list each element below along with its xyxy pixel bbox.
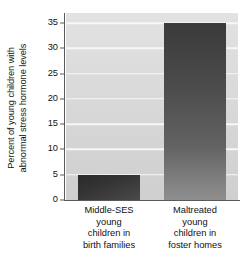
y-tick-label-35: 35 (36, 18, 58, 27)
bar-fill-1 (164, 23, 226, 200)
y-axis-title-line-2: abnormal stress hormone levels (18, 44, 29, 173)
y-tick-label-20: 20 (36, 94, 58, 103)
bar-chart-figure: Percent of young children with abnormal … (0, 0, 250, 260)
x-category-label-1: Maltreatedyoungchildren infoster homes (152, 205, 238, 260)
y-tick-label-0: 0 (36, 195, 58, 204)
x-category-1-line-0: Maltreated (173, 205, 217, 217)
x-category-1-line-3: foster homes (168, 240, 222, 252)
x-category-0-line-3: birth families (83, 240, 135, 252)
bar-1 (164, 23, 226, 200)
bar-0 (78, 175, 140, 200)
y-tick-label-15: 15 (36, 120, 58, 129)
x-category-1-line-2: children in (174, 228, 216, 240)
x-axis-category-labels: Middle-SESyoungchildren inbirth families… (66, 205, 238, 260)
y-tick-label-10: 10 (36, 145, 58, 154)
x-category-label-0: Middle-SESyoungchildren inbirth families (66, 205, 152, 260)
x-category-0-line-1: young (96, 217, 121, 229)
y-axis-tick-labels: 05101520253035 (36, 0, 58, 260)
y-axis-title-line-1: Percent of young children with (6, 47, 17, 169)
plot-area (66, 13, 238, 200)
y-tick-label-30: 30 (36, 44, 58, 53)
y-axis-title: Percent of young children with abnormal … (0, 14, 34, 202)
x-axis-spine (64, 200, 240, 201)
x-category-0-line-0: Middle-SES (84, 205, 133, 217)
bar-fill-0 (78, 175, 140, 200)
y-tick-label-5: 5 (36, 170, 58, 179)
x-category-0-line-2: children in (88, 228, 130, 240)
x-category-1-line-1: young (182, 217, 207, 229)
y-tick-label-25: 25 (36, 69, 58, 78)
